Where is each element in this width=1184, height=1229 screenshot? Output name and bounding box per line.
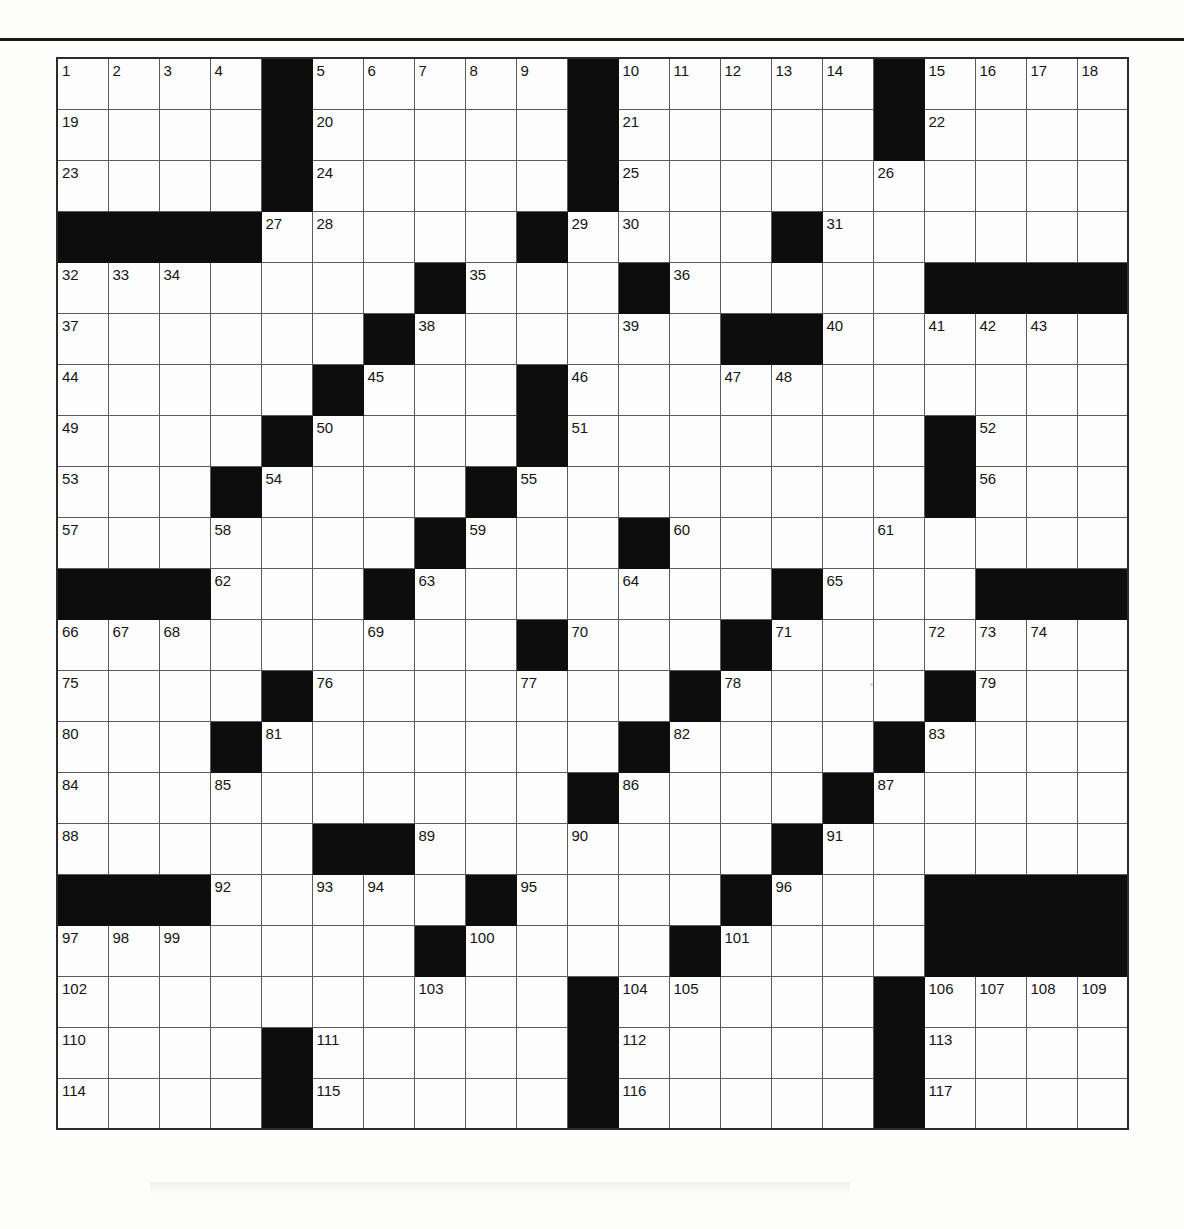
- crossword-letter-cell[interactable]: [414, 415, 465, 466]
- crossword-letter-cell[interactable]: [720, 466, 771, 517]
- crossword-letter-cell[interactable]: 106: [924, 976, 975, 1027]
- crossword-letter-cell[interactable]: [822, 1027, 873, 1078]
- crossword-letter-cell[interactable]: [210, 1078, 261, 1129]
- crossword-letter-cell[interactable]: [516, 1027, 567, 1078]
- crossword-letter-cell[interactable]: 56: [975, 466, 1026, 517]
- crossword-letter-cell[interactable]: [210, 415, 261, 466]
- crossword-letter-cell[interactable]: 48: [771, 364, 822, 415]
- crossword-letter-cell[interactable]: 110: [57, 1027, 108, 1078]
- crossword-letter-cell[interactable]: [669, 772, 720, 823]
- crossword-letter-cell[interactable]: [210, 925, 261, 976]
- crossword-letter-cell[interactable]: 38: [414, 313, 465, 364]
- crossword-letter-cell[interactable]: [363, 517, 414, 568]
- crossword-letter-cell[interactable]: [924, 160, 975, 211]
- crossword-letter-cell[interactable]: 32: [57, 262, 108, 313]
- crossword-letter-cell[interactable]: [363, 109, 414, 160]
- crossword-letter-cell[interactable]: [567, 262, 618, 313]
- crossword-letter-cell[interactable]: 42: [975, 313, 1026, 364]
- crossword-letter-cell[interactable]: 70: [567, 619, 618, 670]
- crossword-letter-cell[interactable]: 100: [465, 925, 516, 976]
- crossword-letter-cell[interactable]: [312, 976, 363, 1027]
- crossword-letter-cell[interactable]: [873, 619, 924, 670]
- crossword-letter-cell[interactable]: [720, 1078, 771, 1129]
- crossword-letter-cell[interactable]: [261, 925, 312, 976]
- crossword-letter-cell[interactable]: 49: [57, 415, 108, 466]
- crossword-letter-cell[interactable]: 35: [465, 262, 516, 313]
- crossword-letter-cell[interactable]: [1077, 415, 1128, 466]
- crossword-letter-cell[interactable]: [516, 568, 567, 619]
- crossword-letter-cell[interactable]: 86: [618, 772, 669, 823]
- crossword-letter-cell[interactable]: [465, 313, 516, 364]
- crossword-letter-cell[interactable]: 45: [363, 364, 414, 415]
- crossword-letter-cell[interactable]: [567, 466, 618, 517]
- crossword-letter-cell[interactable]: [414, 1078, 465, 1129]
- crossword-letter-cell[interactable]: [108, 313, 159, 364]
- crossword-letter-cell[interactable]: 16: [975, 58, 1026, 109]
- crossword-letter-cell[interactable]: 94: [363, 874, 414, 925]
- crossword-letter-cell[interactable]: [975, 823, 1026, 874]
- crossword-letter-cell[interactable]: [924, 517, 975, 568]
- crossword-letter-cell[interactable]: [108, 415, 159, 466]
- crossword-letter-cell[interactable]: 9: [516, 58, 567, 109]
- crossword-letter-cell[interactable]: 64: [618, 568, 669, 619]
- crossword-letter-cell[interactable]: [618, 415, 669, 466]
- crossword-letter-cell[interactable]: 39: [618, 313, 669, 364]
- crossword-letter-cell[interactable]: [1026, 160, 1077, 211]
- crossword-letter-cell[interactable]: [159, 109, 210, 160]
- crossword-letter-cell[interactable]: [159, 772, 210, 823]
- crossword-letter-cell[interactable]: [516, 1078, 567, 1129]
- crossword-letter-cell[interactable]: 104: [618, 976, 669, 1027]
- crossword-letter-cell[interactable]: [975, 1078, 1026, 1129]
- crossword-letter-cell[interactable]: 112: [618, 1027, 669, 1078]
- crossword-letter-cell[interactable]: [720, 1027, 771, 1078]
- crossword-letter-cell[interactable]: [1026, 415, 1077, 466]
- crossword-letter-cell[interactable]: 107: [975, 976, 1026, 1027]
- crossword-letter-cell[interactable]: [771, 976, 822, 1027]
- crossword-letter-cell[interactable]: 66: [57, 619, 108, 670]
- crossword-letter-cell[interactable]: [822, 517, 873, 568]
- crossword-letter-cell[interactable]: 37: [57, 313, 108, 364]
- crossword-letter-cell[interactable]: [414, 874, 465, 925]
- crossword-letter-cell[interactable]: 71: [771, 619, 822, 670]
- crossword-letter-cell[interactable]: [975, 364, 1026, 415]
- crossword-letter-cell[interactable]: 52: [975, 415, 1026, 466]
- crossword-letter-cell[interactable]: [363, 772, 414, 823]
- crossword-letter-cell[interactable]: 113: [924, 1027, 975, 1078]
- crossword-letter-cell[interactable]: [465, 1078, 516, 1129]
- crossword-letter-cell[interactable]: [1026, 1078, 1077, 1129]
- crossword-letter-cell[interactable]: [465, 415, 516, 466]
- crossword-letter-cell[interactable]: [261, 517, 312, 568]
- crossword-letter-cell[interactable]: [771, 1078, 822, 1129]
- crossword-letter-cell[interactable]: 50: [312, 415, 363, 466]
- crossword-letter-cell[interactable]: [924, 364, 975, 415]
- crossword-letter-cell[interactable]: [771, 109, 822, 160]
- crossword-letter-cell[interactable]: [924, 823, 975, 874]
- crossword-letter-cell[interactable]: 115: [312, 1078, 363, 1129]
- crossword-letter-cell[interactable]: [1026, 211, 1077, 262]
- crossword-letter-cell[interactable]: [108, 976, 159, 1027]
- crossword-letter-cell[interactable]: [873, 211, 924, 262]
- crossword-letter-cell[interactable]: [669, 568, 720, 619]
- crossword-letter-cell[interactable]: [414, 211, 465, 262]
- crossword-letter-cell[interactable]: 14: [822, 58, 873, 109]
- crossword-letter-cell[interactable]: 62: [210, 568, 261, 619]
- crossword-letter-cell[interactable]: 68: [159, 619, 210, 670]
- crossword-letter-cell[interactable]: [108, 466, 159, 517]
- crossword-letter-cell[interactable]: 108: [1026, 976, 1077, 1027]
- crossword-letter-cell[interactable]: [720, 415, 771, 466]
- crossword-letter-cell[interactable]: [567, 925, 618, 976]
- crossword-letter-cell[interactable]: [108, 1027, 159, 1078]
- crossword-letter-cell[interactable]: 93: [312, 874, 363, 925]
- crossword-letter-cell[interactable]: 99: [159, 925, 210, 976]
- crossword-letter-cell[interactable]: 89: [414, 823, 465, 874]
- crossword-letter-cell[interactable]: 111: [312, 1027, 363, 1078]
- crossword-letter-cell[interactable]: 13: [771, 58, 822, 109]
- crossword-letter-cell[interactable]: 61: [873, 517, 924, 568]
- crossword-letter-cell[interactable]: [516, 160, 567, 211]
- crossword-letter-cell[interactable]: [108, 364, 159, 415]
- crossword-letter-cell[interactable]: 82: [669, 721, 720, 772]
- crossword-letter-cell[interactable]: [465, 160, 516, 211]
- crossword-letter-cell[interactable]: 26: [873, 160, 924, 211]
- crossword-letter-cell[interactable]: [312, 517, 363, 568]
- crossword-letter-cell[interactable]: [720, 772, 771, 823]
